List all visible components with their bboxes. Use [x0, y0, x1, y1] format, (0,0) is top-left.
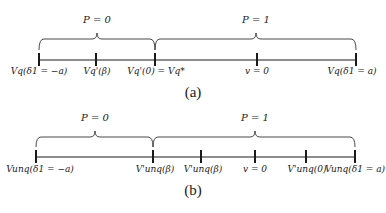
tick-label-a-4: Vq(δ1 = a)	[327, 66, 376, 76]
tick-label-b-1: V'unq(β)	[136, 164, 175, 174]
region-label-b-p1: P = 1	[241, 112, 269, 123]
panel-b	[36, 131, 355, 163]
tick-label-b-0: Vunq(δ1 = −a)	[6, 164, 74, 174]
brace-p1-b	[153, 131, 355, 147]
tick-label-b-2: V'unq(β)	[184, 164, 223, 174]
tick-label-a-3: v = 0	[245, 66, 269, 76]
brace-p0-a	[39, 33, 155, 50]
brace-p1-a	[155, 33, 356, 50]
tick-label-a-2: Vq'(0) = Vq*	[127, 66, 185, 76]
region-label-b-p0: P = 0	[81, 112, 109, 123]
tick-label-a-0: Vq(δ1 = −a)	[11, 66, 68, 76]
region-label-a-p1: P = 1	[242, 14, 270, 25]
caption-b: (b)	[184, 182, 202, 199]
tick-label-b-4: V'unq(0)	[287, 164, 326, 174]
region-label-a-p0: P = 0	[83, 14, 111, 25]
tick-label-b-3: v = 0	[243, 164, 267, 174]
tick-label-a-1: Vq'(β)	[84, 66, 111, 76]
brace-p0-b	[36, 131, 153, 147]
tick-label-b-5: Vunq(δ1 = a)	[325, 164, 385, 174]
caption-a: (a)	[185, 84, 202, 101]
panel-a	[39, 33, 356, 66]
